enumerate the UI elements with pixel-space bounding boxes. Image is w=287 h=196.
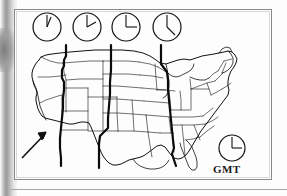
- mountain-clock: [73, 13, 101, 41]
- eastern-clock: [153, 13, 181, 41]
- california-pointer-arrow: [22, 132, 46, 158]
- pacific-clock: [33, 13, 61, 41]
- us-map-outline: [32, 45, 237, 170]
- figure-artwork: [0, 0, 287, 196]
- west-coast-outline: [33, 81, 46, 120]
- figure-bottom-rule: [10, 189, 287, 190]
- timezone-boundary-lines: [60, 45, 176, 168]
- florida-outline: [180, 140, 197, 170]
- central-clock: [112, 13, 140, 41]
- gmt-clock: [219, 135, 245, 161]
- state-boundaries: [38, 57, 232, 157]
- figure-page: GMT: [0, 0, 287, 196]
- mountain-central-boundary: [99, 45, 111, 168]
- timezone-clock-row: [33, 13, 181, 41]
- texas-gulf-outline: [133, 159, 169, 169]
- lake-erie-outline: [190, 77, 209, 80]
- gmt-clock-label: GMT: [213, 163, 240, 175]
